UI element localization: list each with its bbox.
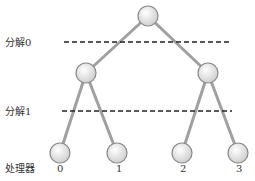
processor-number-0: 0 xyxy=(57,163,63,174)
edge-root-left xyxy=(86,16,148,73)
edge-left-leaf1 xyxy=(86,73,117,153)
split0-label: 分解0 xyxy=(5,36,31,48)
level1-node-left xyxy=(76,63,96,83)
processor-number-3: 3 xyxy=(236,163,242,174)
leaf-node-1 xyxy=(107,143,127,163)
processor-label: 处理器 xyxy=(5,163,35,174)
level1-node-right xyxy=(198,63,218,83)
processor-number-2: 2 xyxy=(180,163,186,174)
tree-decomposition-diagram: 分解0 分解1 处理器 0 1 2 3 xyxy=(0,0,255,181)
leaf-node-2 xyxy=(172,143,192,163)
root-node xyxy=(138,6,158,26)
edge-root-right xyxy=(148,16,208,73)
processor-number-1: 1 xyxy=(116,163,122,174)
edge-right-leaf3 xyxy=(208,73,238,153)
tree-edges xyxy=(60,16,238,153)
tree-nodes xyxy=(50,6,248,163)
leaf-node-3 xyxy=(228,143,248,163)
edge-left-leaf0 xyxy=(60,73,86,153)
edge-right-leaf2 xyxy=(182,73,208,153)
leaf-node-0 xyxy=(50,143,70,163)
split1-label: 分解1 xyxy=(5,105,31,117)
